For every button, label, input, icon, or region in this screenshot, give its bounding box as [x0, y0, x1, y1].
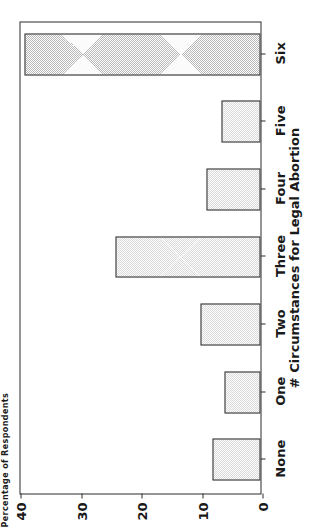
- y-tick: 40: [20, 493, 21, 498]
- y-tick: 0: [262, 493, 263, 498]
- bar-chart-figure: Percentage of Respondents 010203040 None…: [0, 0, 312, 527]
- x-tick-label: Two: [272, 309, 287, 337]
- x-axis-title: # Circumstances for Legal Abortion: [286, 21, 301, 494]
- y-tick: 20: [141, 493, 142, 498]
- x-tick: Four: [260, 188, 265, 189]
- rotated-figure-wrapper: Percentage of Respondents 010203040 None…: [0, 0, 312, 527]
- x-tick-label: One: [272, 376, 287, 405]
- x-tick: One: [260, 391, 265, 392]
- y-tick-label: 0: [256, 502, 271, 511]
- x-tick-label: Four: [272, 171, 287, 204]
- y-tick: 30: [81, 493, 82, 498]
- x-tick-label: Five: [272, 105, 287, 136]
- y-tick-label: 30: [74, 502, 89, 520]
- y-tick-label: 20: [135, 502, 150, 520]
- x-tick: Five: [260, 120, 265, 121]
- bar-series: [20, 22, 260, 493]
- y-tick: 10: [202, 493, 203, 498]
- x-tick: Two: [260, 323, 265, 324]
- x-tick-label: Three: [272, 234, 287, 276]
- bar: [24, 33, 260, 75]
- x-tick: Six: [260, 53, 265, 54]
- bar: [224, 371, 260, 413]
- plot-area: 010203040 NoneOneTwoThreeFourFiveSix: [19, 21, 261, 494]
- bar: [206, 168, 260, 210]
- bar: [212, 438, 260, 480]
- bar: [221, 100, 260, 142]
- x-tick-label: None: [272, 439, 287, 477]
- y-axis-title: Percentage of Respondents: [0, 227, 9, 527]
- bar: [115, 236, 260, 278]
- bar: [200, 303, 261, 345]
- y-tick-label: 10: [195, 502, 210, 520]
- x-tick: None: [260, 458, 265, 459]
- y-tick-label: 40: [14, 502, 29, 520]
- x-tick-label: Six: [272, 42, 287, 64]
- x-tick: Three: [260, 256, 265, 257]
